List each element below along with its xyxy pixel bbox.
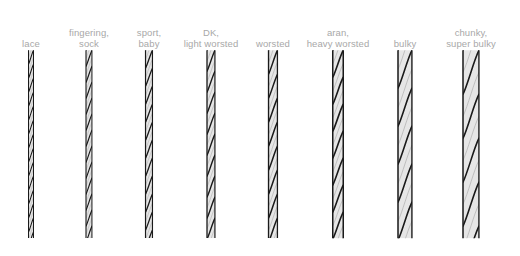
yarn-label-line: super bulky: [391, 38, 520, 50]
yarn-strand-graphic: [144, 49, 153, 239]
yarn-weight-chart: lacefingering,socksport,babyDK,light wor…: [0, 0, 520, 256]
yarn-strand-fingering-sock: [85, 49, 93, 239]
yarn-strand-graphic: [397, 49, 413, 239]
yarn-strand-dk-light-worsted: [206, 49, 216, 239]
yarn-strand-graphic: [27, 49, 34, 239]
yarn-strand-lace: [27, 49, 34, 239]
yarn-strand-graphic: [332, 49, 345, 239]
yarn-strand-aran-heavy-worsted: [332, 49, 345, 239]
yarn-strand-worsted: [267, 49, 278, 239]
yarn-label-line: chunky,: [391, 27, 520, 39]
yarn-strand-graphic: [85, 49, 93, 239]
yarn-strand-chunky-super-bulky: [462, 49, 480, 239]
yarn-strand-sport-baby: [144, 49, 153, 239]
yarn-strand-graphic: [462, 49, 480, 239]
yarn-label-chunky-super-bulky: chunky,super bulky: [391, 27, 520, 50]
yarn-strand-bulky: [397, 49, 413, 239]
yarn-strand-graphic: [206, 49, 216, 239]
yarn-strand-graphic: [267, 49, 278, 239]
